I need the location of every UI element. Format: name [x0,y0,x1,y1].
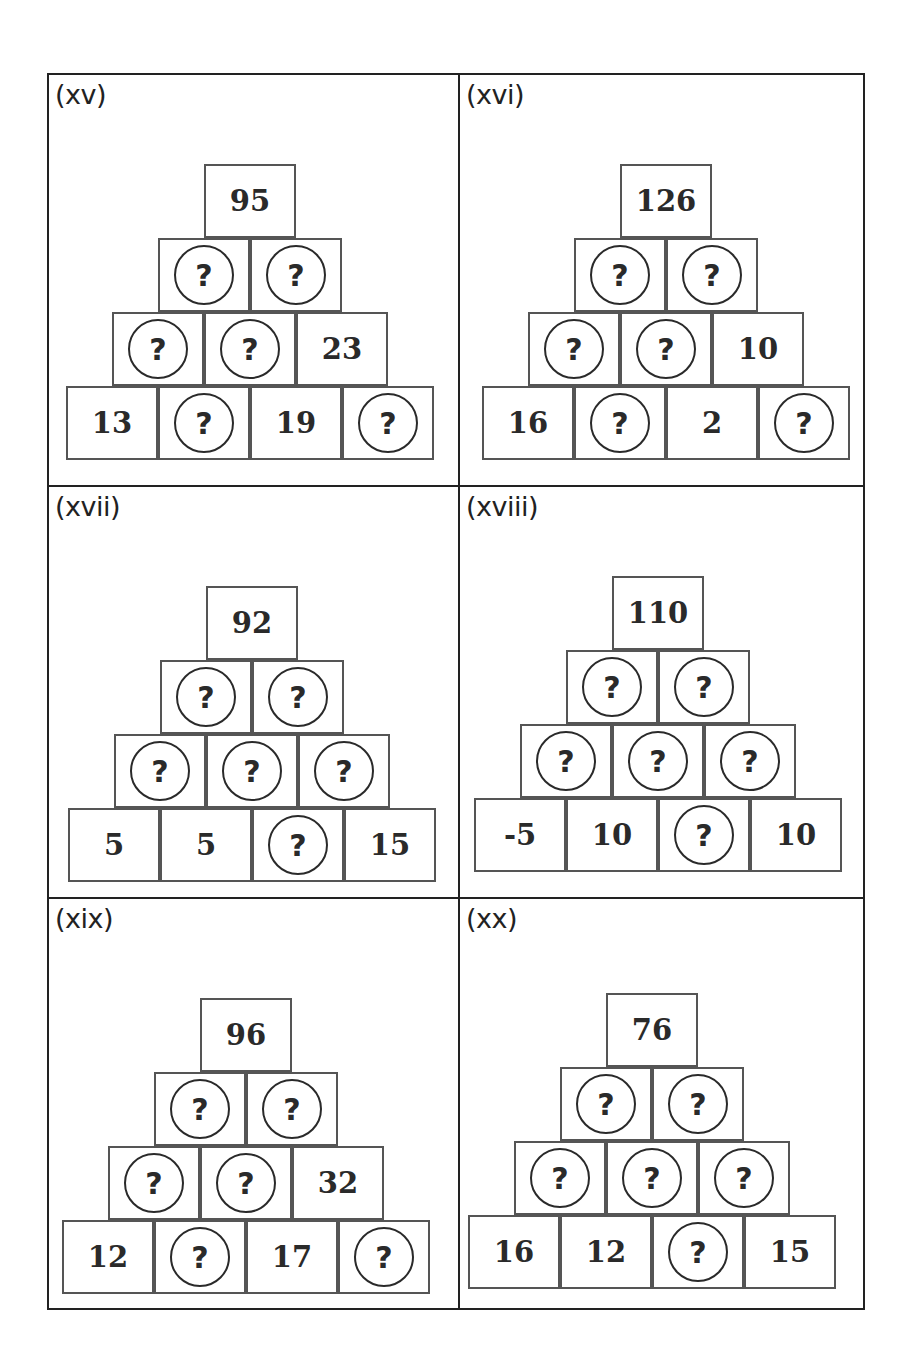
question-circle-icon: ? [674,657,734,717]
unknown-cell: ? [658,650,750,724]
given-cell: 126 [620,164,712,238]
question-circle-icon: ? [682,245,742,305]
question-circle-icon: ? [314,741,374,801]
cell-value: 10 [592,818,632,852]
question-circle-icon: ? [216,1153,276,1213]
given-cell: 17 [246,1220,338,1294]
cell-value: -5 [504,818,536,852]
unknown-cell: ? [252,808,344,882]
unknown-cell: ? [574,238,666,312]
unknown-cell: ? [520,724,612,798]
given-cell: 23 [296,312,388,386]
unknown-cell: ? [158,386,250,460]
question-circle-icon: ? [636,319,696,379]
given-cell: 13 [66,386,158,460]
question-circle-icon: ? [774,393,834,453]
cell-value: 23 [322,332,362,366]
question-circle-icon: ? [176,667,236,727]
question-circle-icon: ? [530,1148,590,1208]
panel-label: (xix) [55,903,113,934]
given-cell: 96 [200,998,292,1072]
cell-value: 13 [92,406,132,440]
unknown-cell: ? [566,650,658,724]
cell-value: 5 [104,828,124,862]
unknown-cell: ? [514,1141,606,1215]
question-circle-icon: ? [720,731,780,791]
cell-value: 126 [636,184,697,218]
cell-value: 15 [370,828,410,862]
unknown-cell: ? [206,734,298,808]
question-circle-icon: ? [628,731,688,791]
given-cell: 76 [606,993,698,1067]
given-cell: 15 [344,808,436,882]
cell-value: 110 [628,596,689,630]
unknown-cell: ? [108,1146,200,1220]
unknown-cell: ? [704,724,796,798]
unknown-cell: ? [606,1141,698,1215]
given-cell: 5 [160,808,252,882]
cell-value: 95 [230,184,270,218]
question-circle-icon: ? [576,1074,636,1134]
given-cell: 15 [744,1215,836,1289]
pyramid-panel: (xv) 95????2313?19? [49,75,457,485]
given-cell: 32 [292,1146,384,1220]
cell-value: 16 [494,1235,534,1269]
unknown-cell: ? [758,386,850,460]
cell-value: 15 [770,1235,810,1269]
question-circle-icon: ? [220,319,280,379]
cell-value: 32 [318,1166,358,1200]
given-cell: 16 [468,1215,560,1289]
question-circle-icon: ? [354,1227,414,1287]
cell-value: 5 [196,828,216,862]
question-circle-icon: ? [174,393,234,453]
question-circle-icon: ? [170,1227,230,1287]
cell-value: 96 [226,1018,266,1052]
question-circle-icon: ? [668,1074,728,1134]
unknown-cell: ? [666,238,758,312]
question-circle-icon: ? [174,245,234,305]
question-circle-icon: ? [358,393,418,453]
unknown-cell: ? [158,238,250,312]
question-circle-icon: ? [544,319,604,379]
unknown-cell: ? [250,238,342,312]
given-cell: 16 [482,386,574,460]
unknown-cell: ? [252,660,344,734]
unknown-cell: ? [620,312,712,386]
cell-value: 12 [88,1240,128,1274]
cell-value: 92 [232,606,272,640]
pyramid-panel: (xx) 76?????1612?15 [460,899,868,1309]
cell-value: 16 [508,406,548,440]
unknown-cell: ? [338,1220,430,1294]
unknown-cell: ? [658,798,750,872]
pyramid-panel: (xvi) 126????1016?2? [460,75,868,485]
given-cell: 10 [750,798,842,872]
given-cell: 5 [68,808,160,882]
given-cell: 12 [62,1220,154,1294]
worksheet-grid: (xv) 95????2313?19? (xvi) 126????1016?2?… [47,73,865,1310]
question-circle-icon: ? [128,319,188,379]
question-circle-icon: ? [590,245,650,305]
unknown-cell: ? [112,312,204,386]
question-circle-icon: ? [130,741,190,801]
unknown-cell: ? [612,724,704,798]
panel-label: (xvii) [55,491,120,522]
panel-label: (xviii) [466,491,538,522]
unknown-cell: ? [342,386,434,460]
question-circle-icon: ? [590,393,650,453]
unknown-cell: ? [246,1072,338,1146]
question-circle-icon: ? [674,805,734,865]
cell-value: 76 [632,1013,672,1047]
question-circle-icon: ? [268,667,328,727]
question-circle-icon: ? [124,1153,184,1213]
given-cell: 110 [612,576,704,650]
unknown-cell: ? [698,1141,790,1215]
cell-value: 17 [272,1240,312,1274]
unknown-cell: ? [204,312,296,386]
question-circle-icon: ? [262,1079,322,1139]
unknown-cell: ? [200,1146,292,1220]
unknown-cell: ? [154,1072,246,1146]
unknown-cell: ? [652,1215,744,1289]
panel-label: (xx) [466,903,517,934]
question-circle-icon: ? [266,245,326,305]
unknown-cell: ? [160,660,252,734]
